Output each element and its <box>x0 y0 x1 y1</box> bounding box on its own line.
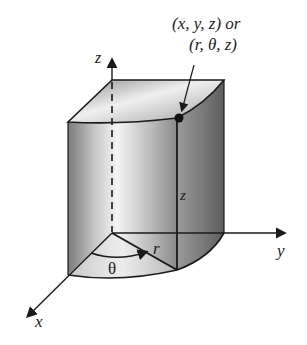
point-label-cylindrical: (r, θ, z) <box>189 35 237 54</box>
y-axis-label: y <box>275 241 285 260</box>
x-axis-label: x <box>34 312 43 331</box>
point-label-cartesian: (x, y, z) or <box>172 14 241 33</box>
radius-label: r <box>153 239 160 258</box>
point-marker <box>175 114 184 123</box>
z-axis-label: z <box>94 49 102 66</box>
angle-label: θ <box>108 259 116 278</box>
height-label: z <box>179 187 186 203</box>
cylindrical-coordinates-figure: (x, y, z) or (r, θ, z) z y x z r θ <box>0 0 307 345</box>
